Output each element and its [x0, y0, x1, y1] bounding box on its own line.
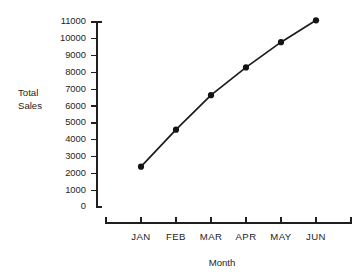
ytick-label: 6000	[65, 100, 86, 111]
ytick-label: 11000	[61, 15, 86, 26]
y-axis-title-line-1: Total	[18, 87, 38, 98]
y-axis-tick-labels: 11000 10000 9000 8000 7000 6000 5000 400…	[60, 15, 86, 211]
xtick-label-jun: JUN	[306, 231, 326, 242]
y-axis-ticks	[91, 22, 97, 190]
series-line-total-sales	[141, 20, 316, 166]
ytick-label: 9000	[65, 49, 86, 60]
xtick-label-apr: APR	[236, 231, 257, 242]
x-axis-ticks	[141, 217, 316, 223]
x-axis-tick-labels: JAN FEB MAR APR MAY JUN	[131, 231, 326, 242]
xtick-label-may: MAY	[270, 231, 291, 242]
ytick-label: 3000	[65, 150, 86, 161]
y-axis-line	[97, 22, 102, 207]
data-point-jan	[138, 164, 144, 170]
ytick-label: 0	[81, 200, 86, 211]
xtick-label-mar: MAR	[200, 231, 223, 242]
ytick-label: 1000	[65, 184, 86, 195]
ytick-label: 4000	[65, 133, 86, 144]
data-point-mar	[208, 92, 214, 98]
data-point-feb	[173, 127, 179, 133]
xtick-label-jan: JAN	[131, 231, 150, 242]
data-point-may	[278, 39, 284, 45]
x-axis-title: Month	[209, 257, 236, 268]
ytick-label: 10000	[60, 32, 86, 43]
ytick-label: 8000	[65, 66, 86, 77]
y-axis-title-line-2: Sales	[18, 100, 42, 111]
y-axis-title: Total Sales	[18, 87, 42, 111]
ytick-label: 5000	[65, 116, 86, 127]
x-axis-line	[106, 217, 351, 223]
series-markers	[138, 17, 319, 170]
data-point-apr	[243, 64, 249, 70]
ytick-label: 2000	[65, 167, 86, 178]
chart-container: 11000 10000 9000 8000 7000 6000 5000 400…	[0, 0, 364, 277]
ytick-label: 7000	[65, 83, 86, 94]
xtick-label-feb: FEB	[166, 231, 186, 242]
line-chart: 11000 10000 9000 8000 7000 6000 5000 400…	[0, 0, 364, 277]
data-point-jun	[313, 17, 319, 23]
